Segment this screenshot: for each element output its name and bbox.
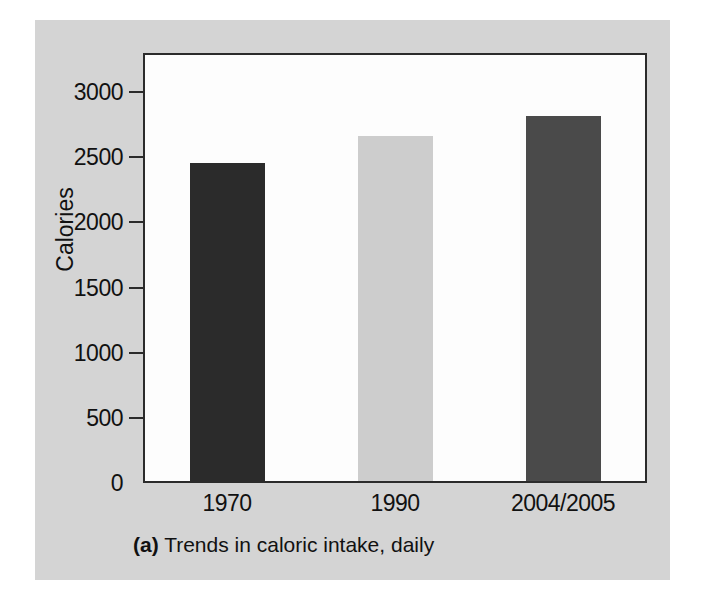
y-axis-tick-label: 1500 (74, 274, 123, 301)
bar-1970 (190, 163, 265, 481)
y-axis-tick-label: 3000 (74, 79, 123, 106)
y-axis-tick (129, 287, 143, 289)
y-axis-tick-label: 0 (111, 470, 123, 497)
y-axis-ticks: 050010001500200025003000 (35, 20, 143, 483)
x-axis-tick-label: 2004/2005 (511, 490, 615, 517)
caption-tag: (a) (133, 533, 159, 556)
y-axis-tick (129, 221, 143, 223)
figure-panel: Calories 050010001500200025003000 197019… (35, 20, 670, 580)
bar-1990 (358, 136, 433, 481)
y-axis-tick-label: 2000 (74, 209, 123, 236)
x-axis-tick-label: 1970 (202, 490, 251, 517)
y-axis-tick (129, 352, 143, 354)
y-axis-tick (129, 417, 143, 419)
figure-caption: (a) Trends in caloric intake, daily (133, 533, 434, 557)
y-axis-tick (129, 91, 143, 93)
caption-text: Trends in caloric intake, daily (164, 533, 434, 556)
plot-area (143, 53, 647, 483)
y-axis-tick-label: 2500 (74, 144, 123, 171)
bar-2004-2005 (526, 116, 601, 481)
y-axis-tick-label: 500 (86, 404, 123, 431)
x-axis-tick-label: 1990 (370, 490, 419, 517)
y-axis-tick-label: 1000 (74, 339, 123, 366)
y-axis-tick (129, 156, 143, 158)
